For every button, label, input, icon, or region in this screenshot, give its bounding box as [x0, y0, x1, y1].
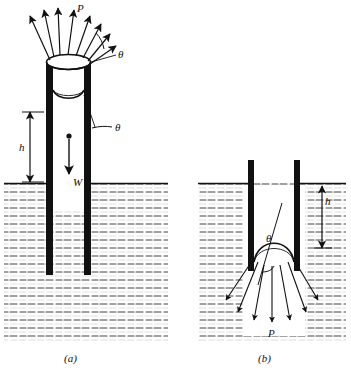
label-angle-theta-inner-a: θ — [115, 121, 121, 133]
label-angle-theta-b: θ — [266, 232, 272, 244]
caption-panel-a: (a) — [64, 352, 77, 364]
label-angle-theta-outer-a: θ — [118, 48, 124, 60]
label-height-h-b: h — [325, 195, 331, 207]
capillary-rise-figure: P θ θ h W θ h P — [0, 0, 351, 376]
caption-panel-b: (b) — [258, 352, 271, 364]
label-force-P-b: P — [267, 327, 275, 339]
label-weight-W-a: W — [73, 176, 83, 188]
meniscus-a — [53, 90, 84, 98]
height-dimension-a — [22, 112, 44, 182]
label-height-h-a: h — [19, 141, 25, 153]
panel-b — [198, 160, 346, 341]
panel-a — [4, 8, 168, 341]
label-force-P-a: P — [76, 2, 84, 14]
angle-theta-outer-a — [91, 33, 116, 62]
